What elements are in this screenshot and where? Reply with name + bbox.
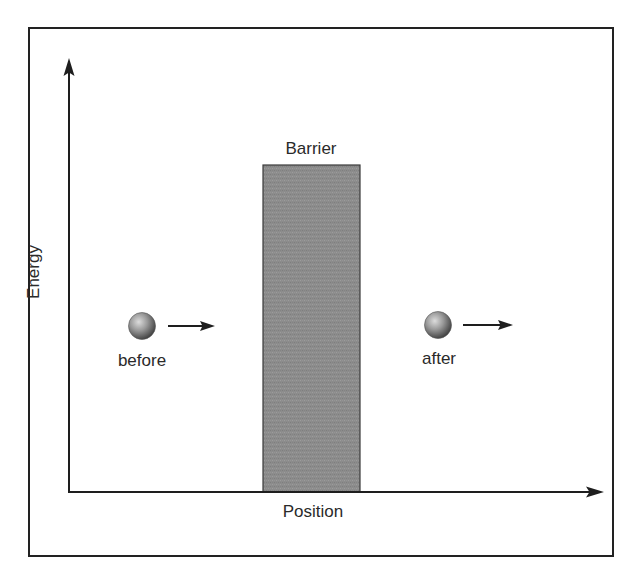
- tunneling-diagram: Barrier before after Position Energy: [0, 0, 639, 577]
- particle-before: [129, 313, 216, 340]
- y-axis-label: Energy: [24, 245, 43, 299]
- before-label: before: [118, 351, 166, 370]
- y-axis: [64, 58, 75, 492]
- after-label: after: [422, 349, 456, 368]
- barrier-label: Barrier: [285, 139, 336, 158]
- right-arrow-icon: [463, 320, 513, 330]
- particle-after: [425, 312, 514, 339]
- x-axis-label: Position: [283, 502, 343, 521]
- particle-ball-icon: [425, 312, 452, 339]
- particle-ball-icon: [129, 313, 156, 340]
- barrier-rect: [263, 165, 360, 492]
- diagram-canvas: Barrier before after Position Energy: [0, 0, 639, 577]
- right-arrow-icon: [168, 321, 215, 331]
